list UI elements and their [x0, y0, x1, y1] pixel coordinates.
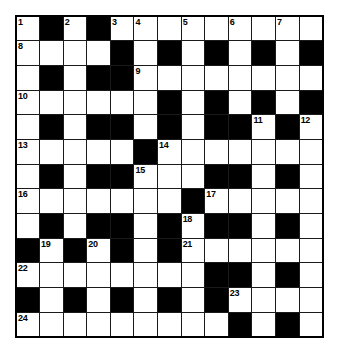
crossword-cell[interactable] [158, 312, 182, 337]
crossword-cell[interactable] [299, 16, 323, 41]
crossword-cell[interactable]: 1 [16, 16, 40, 41]
crossword-cell[interactable] [252, 288, 276, 313]
crossword-cell[interactable]: 5 [181, 16, 205, 41]
crossword-cell[interactable] [252, 238, 276, 263]
crossword-cell[interactable] [181, 41, 205, 66]
crossword-cell[interactable] [276, 41, 300, 66]
crossword-cell[interactable] [158, 16, 182, 41]
crossword-cell[interactable] [252, 189, 276, 214]
crossword-cell[interactable]: 24 [16, 312, 40, 337]
crossword-cell[interactable] [40, 90, 64, 115]
crossword-cell[interactable] [110, 139, 134, 164]
crossword-cell[interactable] [16, 164, 40, 189]
crossword-cell[interactable] [181, 65, 205, 90]
crossword-cell[interactable]: 2 [63, 16, 87, 41]
crossword-cell[interactable] [134, 189, 158, 214]
crossword-cell[interactable] [63, 214, 87, 239]
crossword-cell[interactable]: 12 [299, 115, 323, 140]
crossword-cell[interactable] [299, 189, 323, 214]
crossword-cell[interactable] [205, 312, 229, 337]
crossword-cell[interactable] [205, 65, 229, 90]
crossword-cell[interactable] [134, 238, 158, 263]
crossword-cell[interactable] [228, 238, 252, 263]
crossword-cell[interactable] [87, 263, 111, 288]
crossword-cell[interactable] [228, 139, 252, 164]
crossword-cell[interactable] [228, 189, 252, 214]
crossword-cell[interactable] [181, 312, 205, 337]
crossword-cell[interactable] [205, 16, 229, 41]
crossword-cell[interactable] [276, 189, 300, 214]
crossword-cell[interactable] [158, 263, 182, 288]
crossword-cell[interactable] [252, 164, 276, 189]
crossword-cell[interactable]: 7 [276, 16, 300, 41]
crossword-cell[interactable] [276, 288, 300, 313]
crossword-cell[interactable] [63, 65, 87, 90]
crossword-cell[interactable] [252, 263, 276, 288]
crossword-cell[interactable] [276, 238, 300, 263]
crossword-cell[interactable] [40, 312, 64, 337]
crossword-cell[interactable] [228, 65, 252, 90]
crossword-cell[interactable] [87, 312, 111, 337]
crossword-cell[interactable] [205, 139, 229, 164]
crossword-cell[interactable] [299, 214, 323, 239]
crossword-cell[interactable] [181, 288, 205, 313]
crossword-cell[interactable] [63, 90, 87, 115]
crossword-cell[interactable]: 14 [158, 139, 182, 164]
crossword-cell[interactable] [228, 90, 252, 115]
crossword-cell[interactable]: 8 [16, 41, 40, 66]
crossword-cell[interactable] [276, 139, 300, 164]
crossword-cell[interactable] [40, 288, 64, 313]
crossword-cell[interactable] [16, 214, 40, 239]
crossword-cell[interactable] [87, 189, 111, 214]
crossword-cell[interactable] [87, 139, 111, 164]
crossword-cell[interactable] [87, 288, 111, 313]
crossword-cell[interactable]: 18 [181, 214, 205, 239]
crossword-cell[interactable]: 10 [16, 90, 40, 115]
crossword-cell[interactable]: 15 [134, 164, 158, 189]
crossword-cell[interactable] [181, 164, 205, 189]
crossword-cell[interactable] [63, 115, 87, 140]
crossword-cell[interactable] [16, 115, 40, 140]
crossword-cell[interactable] [158, 189, 182, 214]
crossword-cell[interactable] [276, 90, 300, 115]
crossword-cell[interactable]: 13 [16, 139, 40, 164]
crossword-cell[interactable] [158, 164, 182, 189]
crossword-cell[interactable] [63, 312, 87, 337]
crossword-cell[interactable]: 4 [134, 16, 158, 41]
crossword-cell[interactable] [299, 263, 323, 288]
crossword-cell[interactable] [63, 41, 87, 66]
crossword-cell[interactable] [134, 288, 158, 313]
crossword-cell[interactable]: 23 [228, 288, 252, 313]
crossword-cell[interactable] [63, 139, 87, 164]
crossword-cell[interactable]: 6 [228, 16, 252, 41]
crossword-cell[interactable] [299, 312, 323, 337]
crossword-cell[interactable] [87, 90, 111, 115]
crossword-cell[interactable] [181, 263, 205, 288]
crossword-cell[interactable] [16, 65, 40, 90]
crossword-cell[interactable] [181, 139, 205, 164]
crossword-cell[interactable] [40, 41, 64, 66]
crossword-cell[interactable]: 9 [134, 65, 158, 90]
crossword-cell[interactable] [40, 263, 64, 288]
crossword-cell[interactable] [110, 263, 134, 288]
crossword-cell[interactable] [134, 41, 158, 66]
crossword-cell[interactable] [181, 90, 205, 115]
crossword-cell[interactable] [40, 189, 64, 214]
crossword-grid[interactable]: 123456789101112131415161718192021222324 [15, 15, 324, 338]
crossword-cell[interactable] [63, 164, 87, 189]
crossword-cell[interactable] [134, 214, 158, 239]
crossword-cell[interactable] [252, 312, 276, 337]
crossword-cell[interactable] [134, 115, 158, 140]
crossword-cell[interactable]: 22 [16, 263, 40, 288]
crossword-cell[interactable]: 21 [181, 238, 205, 263]
crossword-cell[interactable] [252, 65, 276, 90]
crossword-cell[interactable]: 20 [87, 238, 111, 263]
crossword-cell[interactable] [299, 238, 323, 263]
crossword-cell[interactable] [205, 238, 229, 263]
crossword-cell[interactable] [134, 90, 158, 115]
crossword-cell[interactable] [110, 189, 134, 214]
crossword-cell[interactable] [299, 139, 323, 164]
crossword-cell[interactable] [134, 263, 158, 288]
crossword-cell[interactable] [276, 65, 300, 90]
crossword-cell[interactable] [252, 139, 276, 164]
